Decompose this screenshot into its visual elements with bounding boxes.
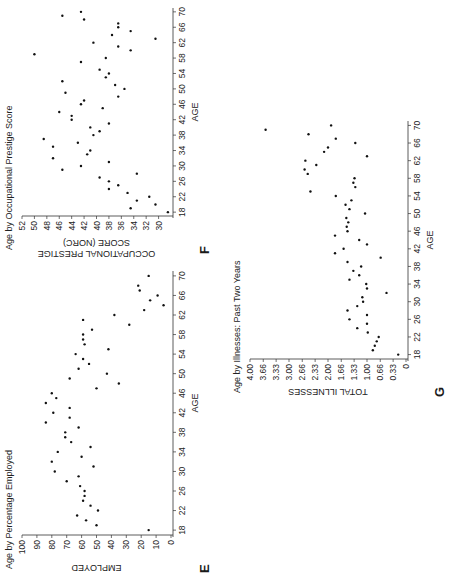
data-point xyxy=(70,119,72,121)
y-tick-label: 0.66 xyxy=(375,364,385,381)
data-point xyxy=(61,169,63,171)
data-point xyxy=(82,358,84,360)
data-point xyxy=(147,275,149,277)
data-point xyxy=(80,165,82,167)
chart-title: Age by Illnesses: Past Two Years xyxy=(232,260,242,393)
chart-title: Age by Percentage Employed xyxy=(4,450,14,569)
data-point xyxy=(354,142,356,144)
data-point xyxy=(117,95,119,97)
x-tick-label: 70 xyxy=(412,120,422,130)
data-point xyxy=(348,278,350,280)
data-point xyxy=(335,195,337,197)
x-tick-label: 30 xyxy=(177,161,187,171)
x-tick-label: 62 xyxy=(177,310,187,320)
y-tick-label: 90 xyxy=(32,540,42,550)
y-tick-label: 2.66 xyxy=(297,364,307,381)
data-point xyxy=(64,92,66,94)
x-tick-label: 42 xyxy=(177,115,187,125)
data-point xyxy=(148,196,150,198)
data-point xyxy=(123,88,125,90)
data-point xyxy=(77,368,79,370)
data-point xyxy=(105,57,107,59)
data-point xyxy=(372,349,374,351)
data-point xyxy=(117,45,119,47)
y-tick-label: 30 xyxy=(121,540,131,550)
data-point xyxy=(354,186,356,188)
x-tick-label: 54 xyxy=(177,349,187,359)
data-point xyxy=(57,451,59,453)
y-axis-label: SCORE (NORC) xyxy=(63,238,130,248)
x-tick-label: 18 xyxy=(177,525,187,535)
data-point xyxy=(156,294,158,296)
x-tick-label: 38 xyxy=(177,130,187,140)
data-point xyxy=(111,34,113,36)
data-point xyxy=(52,412,54,414)
data-point xyxy=(334,252,336,254)
data-point xyxy=(108,180,110,182)
y-tick-label: 42 xyxy=(79,221,89,231)
data-point xyxy=(95,387,97,389)
data-point xyxy=(95,524,97,526)
chart-panel-f: Age by Occupational Prestige Score303234… xyxy=(0,0,215,262)
data-point xyxy=(342,248,344,250)
data-point xyxy=(356,305,358,307)
data-point xyxy=(366,243,368,245)
data-point xyxy=(108,72,110,74)
data-point xyxy=(58,111,60,113)
data-point xyxy=(136,172,138,174)
data-point xyxy=(360,265,362,267)
chart-e-svg: Age by Percentage Employed01020304050607… xyxy=(0,263,215,581)
data-point xyxy=(335,137,337,139)
x-axis-label: AGE xyxy=(190,393,200,412)
data-point xyxy=(68,407,70,409)
data-point xyxy=(356,327,358,329)
data-point xyxy=(51,460,53,462)
x-tick-label: 26 xyxy=(177,176,187,186)
data-point xyxy=(323,151,325,153)
data-point xyxy=(106,372,108,374)
data-point xyxy=(43,138,45,140)
y-tick-label: 2.00 xyxy=(323,364,333,381)
data-point xyxy=(89,504,91,506)
data-point xyxy=(82,319,84,321)
y-axis-label: EMPLOYED xyxy=(71,563,122,573)
data-point xyxy=(108,188,110,190)
data-point xyxy=(83,495,85,497)
x-tick-label: 58 xyxy=(412,173,422,183)
data-point xyxy=(364,212,366,214)
y-tick-label: 3.66 xyxy=(258,364,268,381)
x-tick-label: 50 xyxy=(177,84,187,94)
x-axis-label: AGE xyxy=(425,230,435,249)
data-point xyxy=(70,441,72,443)
data-point xyxy=(64,436,66,438)
data-point xyxy=(137,284,139,286)
data-point xyxy=(350,199,352,201)
data-point xyxy=(108,161,110,163)
data-point xyxy=(129,30,131,32)
data-point xyxy=(129,49,131,51)
y-tick-label: 38 xyxy=(104,221,114,231)
data-point xyxy=(366,155,368,157)
data-point xyxy=(347,221,349,223)
data-point xyxy=(264,129,266,131)
data-point xyxy=(85,519,87,521)
y-tick-label: 50 xyxy=(29,221,39,231)
data-point xyxy=(346,261,348,263)
x-tick-label: 26 xyxy=(412,314,422,324)
data-point xyxy=(346,230,348,232)
data-point xyxy=(379,256,381,258)
data-point xyxy=(80,11,82,13)
data-point xyxy=(70,115,72,117)
data-point xyxy=(83,18,85,20)
y-tick-label: 44 xyxy=(67,221,77,231)
data-point xyxy=(309,190,311,192)
y-tick-label: 10 xyxy=(151,540,161,550)
data-point xyxy=(77,475,79,477)
x-tick-label: 54 xyxy=(177,68,187,78)
data-point xyxy=(108,122,110,124)
y-tick-label: 0 xyxy=(401,364,411,369)
y-tick-label: 2.33 xyxy=(310,364,320,381)
y-tick-label: 20 xyxy=(136,540,146,550)
x-tick-label: 22 xyxy=(412,332,422,342)
data-point xyxy=(167,211,169,213)
